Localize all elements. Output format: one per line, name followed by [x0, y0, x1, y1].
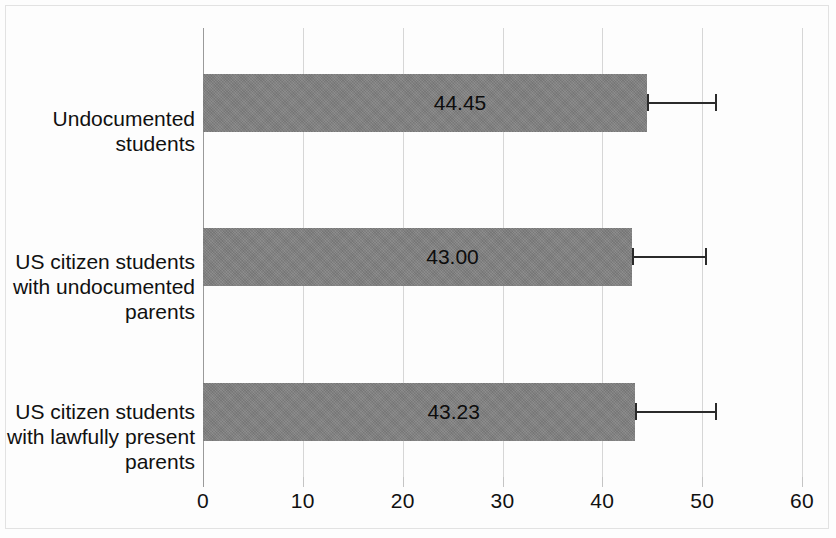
category-label-1-line-0: US citizen students: [0, 249, 195, 274]
tick-mark-60: [802, 477, 803, 487]
error-bar-cap-right-1: [705, 248, 707, 265]
tick-mark-30: [503, 477, 504, 487]
tick-mark-20: [403, 477, 404, 487]
x-tick-label-50: 50: [672, 489, 732, 513]
bar-2[interactable]: [203, 383, 635, 441]
category-label-1-line-2: parents: [0, 299, 195, 324]
bar-value-label-2: 43.23: [427, 400, 480, 424]
category-label-0: Undocumented students: [0, 106, 195, 156]
category-label-2-line-1: with lawfully present: [0, 424, 195, 449]
x-tick-label-20: 20: [373, 489, 433, 513]
bar-1[interactable]: [203, 228, 632, 286]
bar-value-label-0: 44.45: [434, 91, 487, 115]
bar-0[interactable]: [203, 74, 647, 132]
category-label-1-line-1: with undocumented: [0, 274, 195, 299]
category-label-0-line-1: students: [0, 131, 195, 156]
error-bar-line-1: [632, 256, 707, 258]
error-bar-cap-right-2: [715, 403, 717, 420]
bar-group-1: 43.00: [203, 228, 802, 286]
plot-area: 44.4543.0043.23: [203, 28, 802, 477]
tick-mark-40: [602, 477, 603, 487]
category-label-2: US citizen students with lawfully presen…: [0, 399, 195, 474]
tick-mark-10: [303, 477, 304, 487]
category-label-2-line-0: US citizen students: [0, 399, 195, 424]
error-bar-cap-right-0: [715, 94, 717, 111]
error-bar-cap-left-1: [632, 248, 634, 265]
tick-mark-50: [702, 477, 703, 487]
category-label-1: US citizen students with undocumented pa…: [0, 249, 195, 324]
category-label-0-line-0: Undocumented: [0, 106, 195, 131]
x-tick-label-60: 60: [772, 489, 832, 513]
x-tick-label-0: 0: [173, 489, 233, 513]
error-bar-line-0: [647, 102, 717, 104]
error-bar-cap-left-0: [647, 94, 649, 111]
chart-figure: Undocumented students US citizen student…: [0, 0, 836, 538]
bar-group-0: 44.45: [203, 74, 802, 132]
category-label-2-line-2: parents: [0, 449, 195, 474]
error-bar-cap-left-2: [635, 403, 637, 420]
category-axis-labels: Undocumented students US citizen student…: [0, 28, 195, 477]
gridline-60: [802, 28, 803, 477]
bar-group-2: 43.23: [203, 383, 802, 441]
x-tick-label-10: 10: [273, 489, 333, 513]
tick-mark-0: [203, 477, 204, 487]
error-bar-line-2: [635, 411, 718, 413]
x-tick-label-30: 30: [473, 489, 533, 513]
x-tick-label-40: 40: [572, 489, 632, 513]
bar-value-label-1: 43.00: [426, 245, 479, 269]
